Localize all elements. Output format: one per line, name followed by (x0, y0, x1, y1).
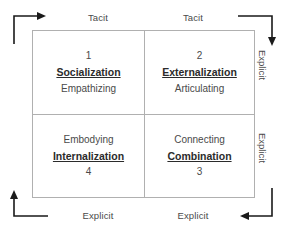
quadrant-action-label: Empathizing (61, 84, 116, 94)
quadrant-internalization[interactable]: Embodying Internalization 4 (33, 115, 145, 197)
seci-matrix-diagram: Tacit Tacit Explicit Explicit Explicit E… (0, 0, 292, 232)
quadrant-action-label: Articulating (175, 84, 224, 94)
quadrant-mode-label: Combination (167, 151, 231, 162)
quadrant-externalization[interactable]: 2 Externalization Articulating (145, 31, 254, 115)
quadrant-mode-label: Socialization (56, 67, 120, 78)
axis-label-tacit-top-left: Tacit (52, 12, 144, 23)
quadrant-socialization[interactable]: 1 Socialization Empathizing (33, 31, 145, 115)
quadrant-action-label: Connecting (174, 135, 225, 145)
axis-label-explicit-bottom-left: Explicit (52, 210, 144, 221)
quadrant-mode-label: Externalization (162, 67, 237, 78)
quadrant-matrix: 1 Socialization Empathizing 2 Externaliz… (32, 30, 255, 198)
axis-label-explicit-right-bottom: Explicit (257, 133, 268, 163)
quadrant-number: 1 (86, 51, 92, 61)
quadrant-action-label: Embodying (63, 135, 113, 145)
axis-label-tacit-top-right: Tacit (144, 12, 242, 23)
quadrant-number: 2 (197, 51, 203, 61)
quadrant-number: 4 (86, 167, 92, 177)
quadrant-combination[interactable]: Connecting Combination 3 (145, 115, 254, 197)
axis-label-explicit-bottom-right: Explicit (144, 210, 242, 221)
quadrant-number: 3 (197, 167, 203, 177)
axis-label-explicit-right-top: Explicit (257, 50, 268, 80)
quadrant-mode-label: Internalization (53, 151, 124, 162)
